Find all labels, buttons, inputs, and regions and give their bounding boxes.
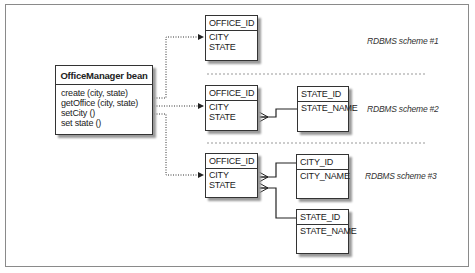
table-field: STATE bbox=[209, 112, 254, 122]
relation-s2-state bbox=[259, 109, 297, 117]
table-field: STATE bbox=[209, 180, 254, 190]
office-manager-bean: OfficeManager bean create (city, state) … bbox=[55, 65, 153, 135]
s2-state-table: STATE_ID STATE_NAME bbox=[297, 86, 349, 132]
bean-method: setCity () bbox=[61, 108, 147, 118]
s2-office-table: OFFICE_ID CITY STATE bbox=[205, 85, 258, 131]
table-field: STATE_NAME bbox=[300, 226, 345, 236]
table-field: STATE_NAME bbox=[301, 103, 345, 113]
table-key: STATE_ID bbox=[298, 87, 348, 102]
table-key: OFFICE_ID bbox=[206, 16, 257, 31]
table-key: OFFICE_ID bbox=[206, 86, 257, 101]
s1-office-table: OFFICE_ID CITY STATE bbox=[205, 15, 258, 61]
crowsfoot-s3-city bbox=[259, 172, 268, 182]
crowsfoot-s2 bbox=[259, 112, 268, 122]
bean-method: create (city, state) bbox=[61, 88, 147, 98]
table-key: OFFICE_ID bbox=[206, 154, 257, 169]
s3-state-table: STATE_ID STATE_NAME bbox=[296, 209, 349, 254]
bean-method: set state () bbox=[61, 118, 147, 128]
arrow-to-scheme-1 bbox=[154, 37, 203, 98]
table-field: CITY bbox=[209, 102, 254, 112]
table-field: CITY_NAME bbox=[300, 171, 345, 181]
bean-title: OfficeManager bean bbox=[56, 66, 152, 85]
s3-city-table: CITY_ID CITY_NAME bbox=[296, 154, 349, 199]
scheme-label-2: RDBMS scheme #2 bbox=[367, 104, 439, 114]
crowsfoot-s3-state bbox=[259, 183, 268, 193]
table-key: CITY_ID bbox=[297, 155, 348, 170]
scheme-label-3: RDBMS scheme #3 bbox=[365, 171, 437, 181]
table-key: STATE_ID bbox=[297, 210, 348, 225]
relation-s3-state bbox=[259, 188, 296, 218]
table-field: STATE bbox=[209, 42, 254, 52]
table-field: CITY bbox=[209, 170, 254, 180]
table-field: CITY bbox=[209, 32, 254, 42]
scheme-label-1: RDBMS scheme #1 bbox=[367, 36, 439, 46]
bean-method: getOffice (city, state) bbox=[61, 98, 147, 108]
s3-office-table: OFFICE_ID CITY STATE bbox=[205, 153, 258, 198]
arrow-to-scheme-3 bbox=[154, 114, 203, 175]
